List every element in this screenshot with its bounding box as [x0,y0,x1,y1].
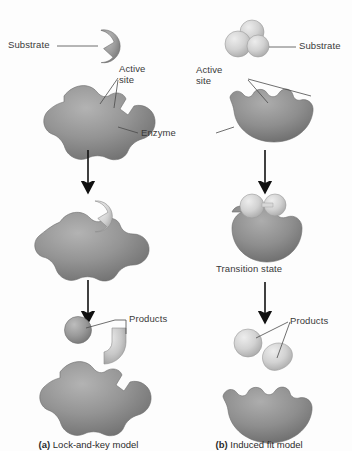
right-panel-caption: (b) Induced fit model [205,428,303,451]
right-caption-text: Induced fit model [228,439,303,450]
right-products-leader-1 [256,322,288,338]
right-caption-marker: (b) [216,439,228,450]
enzyme-models-figure: Substrate Active site Enzyme Products (a… [0,0,352,451]
left-products-row3 [65,317,127,365]
right-enzyme-leader [216,127,234,133]
right-substrate-label: Substrate [299,40,341,51]
right-product-sphere [234,329,262,357]
left-substrate-row1 [101,30,120,63]
right-products-row3 [234,329,292,370]
left-enzyme-row1 [44,86,155,160]
left-active-site-label-line2: site [119,74,134,85]
left-panel-caption: (a) Lock-and-key model [28,428,138,451]
left-substrate-label: Substrate [8,39,50,50]
left-caption-marker: (a) [39,439,51,450]
right-active-site-label-line1: Active [196,64,222,75]
left-caption-text: Lock-and-key model [50,439,138,450]
left-complex-row2 [35,201,149,281]
right-active-site-label-line2: site [196,75,211,86]
left-products-label: Products [129,313,167,324]
figure-canvas [0,0,352,451]
right-substrate-row1 [225,20,269,57]
left-product-crescent [104,328,126,364]
enzyme-label: Enzyme [141,127,176,138]
left-enzyme-row3 [40,362,151,436]
transition-state-label: Transition state [216,263,282,274]
left-product-sphere [65,317,92,344]
right-products-label: Products [290,315,328,326]
right-enzyme-row1 [230,89,313,142]
right-transition-complex-row2 [232,194,302,262]
left-active-site-label-line1: Active [119,63,145,74]
